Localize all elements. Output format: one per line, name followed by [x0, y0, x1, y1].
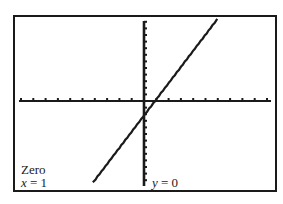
graph-plot: [15, 17, 275, 190]
calculator-graph-screen: Zero x = 1 y = 0: [13, 15, 277, 192]
y-value-label: y = 0: [152, 176, 178, 189]
y-axis: [144, 21, 147, 186]
y-value: = 0: [158, 175, 178, 190]
x-value: = 1: [27, 175, 47, 190]
x-value-label: x = 1: [21, 176, 47, 189]
